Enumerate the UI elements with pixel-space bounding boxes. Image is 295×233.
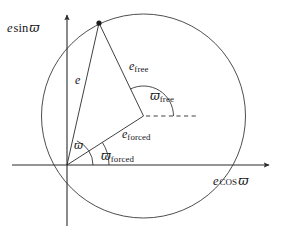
label-e-free: efree	[129, 60, 149, 72]
label-varpi-free-symbol: ϖ	[150, 89, 160, 103]
diagram-canvas	[0, 0, 295, 233]
total-eccentricity-point-marker	[96, 20, 101, 25]
label-e-symbol: e	[75, 73, 80, 87]
label-varpi: ϖ	[74, 140, 83, 151]
x-axis-function: cos	[220, 174, 238, 188]
eccentricity-vector-diagram: e sin ϖ e cos ϖ e efree eforced ϖ ϖfree …	[0, 0, 295, 233]
vector-e	[67, 23, 99, 165]
label-varpi-forced: ϖforced	[101, 150, 134, 162]
label-varpi-symbol: ϖ	[74, 139, 83, 152]
label-e-forced: eforced	[122, 128, 151, 140]
y-axis-function: sin	[14, 21, 29, 35]
label-e-forced-subscript: forced	[127, 132, 150, 142]
label-varpi-free: ϖfree	[150, 90, 174, 102]
label-varpi-forced-subscript: forced	[111, 154, 134, 164]
label-varpi-free-subscript: free	[160, 94, 174, 104]
label-varpi-forced-symbol: ϖ	[101, 149, 111, 163]
y-axis-angle-symbol: ϖ	[29, 20, 39, 35]
label-e-free-subscript: free	[134, 64, 148, 74]
y-axis-label: e sin ϖ	[7, 22, 39, 35]
label-e: e	[75, 74, 80, 86]
x-axis-label: e cos ϖ	[213, 175, 248, 188]
x-axis-angle-symbol: ϖ	[238, 173, 248, 188]
